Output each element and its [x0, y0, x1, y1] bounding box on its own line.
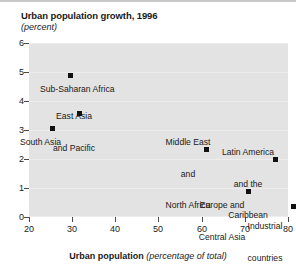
- y-tick-label-1: 1: [10, 183, 24, 193]
- chart-subtitle: (percent): [21, 22, 157, 32]
- y-tick-5: [24, 72, 29, 73]
- x-tick-30: [72, 217, 73, 222]
- point-label-latin-america-line1: Latin America: [212, 147, 284, 158]
- x-tick-40: [115, 217, 116, 222]
- x-axis-title-main: Urban population: [69, 251, 144, 261]
- y-tick-1: [24, 188, 29, 189]
- y-tick-label-4: 4: [10, 96, 24, 106]
- x-tick-20: [29, 217, 30, 222]
- page-title: Urban population growth, 1996: [21, 10, 157, 21]
- y-tick-6: [24, 43, 29, 44]
- point-label-industrial-line2: countries: [238, 253, 292, 264]
- point-label-industrial-countries: Industrial countries: [238, 200, 292, 272]
- x-tick-label-20: 20: [14, 224, 44, 234]
- point-label-south-asia-line1: South Asia: [20, 137, 61, 148]
- title-block: Urban population growth, 1996 (percent): [21, 10, 157, 32]
- chart-figure: Urban population growth, 1996 (percent) …: [0, 0, 296, 272]
- gridline-y6: [29, 43, 288, 44]
- y-tick-label-0: 0: [10, 212, 24, 222]
- point-label-south-asia: South Asia: [20, 116, 61, 169]
- y-tick-label-6: 6: [10, 38, 24, 48]
- y-tick-label-5: 5: [10, 67, 24, 77]
- point-label-industrial-line1: Industrial: [238, 221, 292, 232]
- x-tick-label-40: 40: [100, 224, 130, 234]
- y-tick-4: [24, 101, 29, 102]
- x-tick-label-30: 30: [57, 224, 87, 234]
